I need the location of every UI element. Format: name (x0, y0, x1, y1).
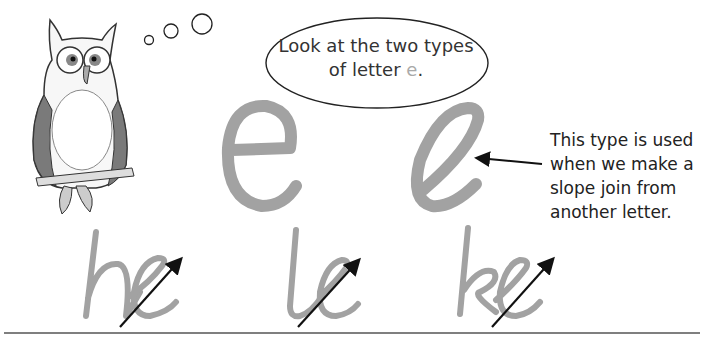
letter-e-slope (417, 108, 478, 206)
annotation-line: This type is used (550, 128, 707, 152)
annotation-line: when we make a (550, 152, 707, 176)
owl-icon (33, 20, 134, 214)
speech-line-1: Look at the two types (266, 34, 486, 58)
joined-pair-le (290, 230, 358, 327)
arrow-left-icon (478, 158, 542, 164)
letter-e-standard (228, 106, 296, 206)
annotation-line: slope join from (550, 176, 707, 200)
joined-pair-he (86, 232, 180, 327)
annotation-line: another letter. (550, 200, 707, 224)
annotation-text: This type is used when we make a slope j… (550, 128, 707, 224)
joined-pair-ke (460, 228, 552, 327)
speech-line-2: of letter e. (266, 58, 486, 82)
thought-bubble-icon (145, 14, 213, 45)
highlight-letter: e (406, 59, 417, 80)
speech-bubble-text: Look at the two types of letter e. (266, 34, 486, 82)
